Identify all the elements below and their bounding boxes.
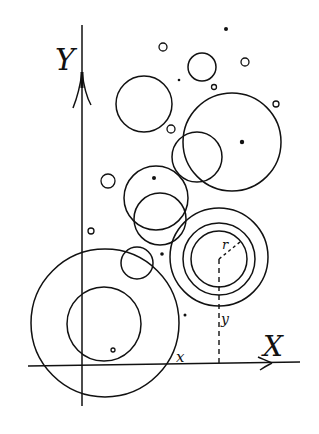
circle-big-bottom-left xyxy=(31,249,179,397)
radius-label: r xyxy=(222,237,229,252)
x-axis xyxy=(28,362,300,366)
axes: X Y xyxy=(28,25,300,406)
dots-group xyxy=(152,27,244,317)
circle-overlap-right xyxy=(172,132,222,182)
dot-big-right-center xyxy=(240,140,244,144)
circle-tiny-o-5 xyxy=(101,174,115,188)
y-coordinate-label: y xyxy=(220,311,230,327)
circle-top-small xyxy=(188,53,216,81)
circle-tiny-o-8 xyxy=(111,348,115,352)
dot-top xyxy=(224,27,228,31)
dot-near-ring xyxy=(160,252,164,256)
y-axis-arrow-fill-icon xyxy=(81,72,84,88)
diagram-canvas: X Y r y x xyxy=(0,0,319,434)
dot-mid-upper xyxy=(152,176,156,180)
x-coordinate-label: x xyxy=(176,348,185,366)
dot-low-right xyxy=(184,314,187,317)
circle-tiny-o-3 xyxy=(241,58,249,66)
circle-tiny-o-2 xyxy=(167,125,175,133)
circle-tiny-o-4 xyxy=(273,101,279,107)
circles-group xyxy=(31,43,281,397)
circle-tiny-o-1 xyxy=(159,43,167,51)
circle-big-right xyxy=(183,93,281,191)
circle-inner-bottom-left xyxy=(67,287,141,361)
circle-top-left xyxy=(116,76,172,132)
circle-tiny-o-7 xyxy=(212,85,217,90)
y-axis-label: Y xyxy=(55,42,78,77)
x-axis-label: X xyxy=(261,330,284,363)
circle-mid-lower xyxy=(134,193,186,245)
dot-left-top xyxy=(178,79,181,82)
coordinate-diagram: X Y r y x xyxy=(0,0,319,434)
circle-tiny-o-6 xyxy=(88,228,94,234)
measurement: r y x xyxy=(176,237,240,366)
